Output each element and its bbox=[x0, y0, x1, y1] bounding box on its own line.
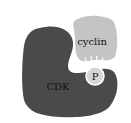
ray bbox=[103, 62, 108, 68]
ray bbox=[80, 62, 85, 68]
cdk-label: CDK bbox=[46, 81, 70, 92]
cyclin-label: cyclin bbox=[77, 36, 107, 47]
phosphate-label: P bbox=[92, 71, 99, 82]
cdk-cyclin-diagram: P cyclin CDK bbox=[0, 0, 131, 123]
